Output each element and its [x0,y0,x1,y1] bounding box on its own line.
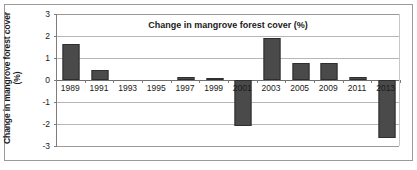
y-tick-mark [54,146,57,147]
y-tick-mark [54,36,57,37]
y-tick-mark [54,102,57,103]
bar-slot [172,14,201,146]
x-tick-mark [85,80,86,83]
x-tick-label-2011: 2011 [343,84,372,93]
x-tick-mark [228,80,229,83]
x-tick-label-1993: 1993 [113,84,142,93]
x-tick-label-2003: 2003 [257,84,286,93]
y-axis-title-line1: Change in mangrove forest cover [2,12,12,144]
x-tick-mark [285,80,286,83]
bar-slot [344,14,373,146]
x-tick-mark [199,80,200,83]
chart-figure: Change in mangrove forest cover (%) Chan… [0,0,417,170]
x-tick-label-2001: 2001 [228,84,257,93]
x-tick-label-1989: 1989 [56,84,85,93]
y-tick-mark [54,58,57,59]
y-tick-label: -3 [20,142,50,151]
x-tick-mark [171,80,172,83]
x-tick-mark [142,80,143,83]
y-tick-mark [54,14,57,15]
bar-2005[interactable] [292,63,309,80]
x-tick-mark [371,80,372,83]
y-tick-label: 3 [20,10,50,19]
y-tick-label: 1 [20,54,50,63]
bar-slot [143,14,172,146]
bar-slot [315,14,344,146]
x-tick-label-1999: 1999 [199,84,228,93]
x-tick-mark [400,80,401,83]
bar-2003[interactable] [263,38,280,80]
x-tick-label-1991: 1991 [85,84,114,93]
y-tick-label: 2 [20,32,50,41]
bar-slot [286,14,315,146]
bar-slot [258,14,287,146]
x-tick-mark [113,80,114,83]
y-tick-label: -1 [20,98,50,107]
bar-slot [57,14,86,146]
bar-1991[interactable] [91,70,108,80]
y-tick-mark [54,124,57,125]
x-tick-label-2013: 2013 [371,84,400,93]
y-tick-label: -2 [20,120,50,129]
bar-1999[interactable] [206,78,223,80]
bar-slot [200,14,229,146]
x-tick-mark [343,80,344,83]
x-tick-mark [56,80,57,83]
bar-slot [229,14,258,146]
bar-slot [372,14,401,146]
gridline-neg3 [57,146,399,147]
bar-2009[interactable] [321,63,338,80]
x-tick-label-1997: 1997 [171,84,200,93]
x-tick-label-2005: 2005 [285,84,314,93]
x-tick-label-2009: 2009 [314,84,343,93]
bar-1997[interactable] [177,77,194,80]
x-tick-label-1995: 1995 [142,84,171,93]
y-tick-label: 0 [20,76,50,85]
bar-slot [86,14,115,146]
bar-slot [114,14,143,146]
x-tick-mark [314,80,315,83]
bar-1989[interactable] [63,44,80,80]
bar-2011[interactable] [349,77,366,80]
x-tick-mark [257,80,258,83]
